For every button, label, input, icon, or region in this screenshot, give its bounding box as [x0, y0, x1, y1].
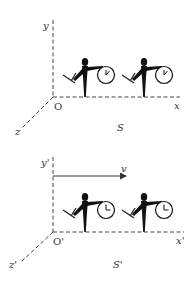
observer-figure [63, 58, 103, 97]
origin-prime-label: O' [53, 236, 64, 247]
clock-icon [98, 67, 115, 84]
origin-label: O [54, 101, 62, 112]
reference-frames-diagram: y x z O S v y' x' z' O' [0, 0, 195, 283]
frame-s: y x z O S [14, 20, 180, 137]
frame-prime-label: S' [113, 259, 123, 270]
z-axis-label: z [14, 126, 21, 137]
z-axis [22, 97, 53, 128]
clock-icon [98, 202, 115, 219]
z-prime-axis-label: z' [8, 259, 17, 270]
z-prime-axis [20, 232, 53, 263]
x-axis-label: x [174, 100, 180, 111]
x-prime-axis-label: x' [176, 235, 184, 246]
observer-figure [63, 193, 103, 232]
clock-icon [156, 67, 173, 84]
y-prime-axis-label: y' [40, 157, 49, 168]
frame-label: S [117, 122, 124, 133]
velocity-label: v [121, 163, 127, 174]
clock-icon [156, 202, 173, 219]
y-axis-label: y [42, 20, 49, 31]
frame-s-prime: v y' x' z' O' S' [8, 157, 184, 270]
